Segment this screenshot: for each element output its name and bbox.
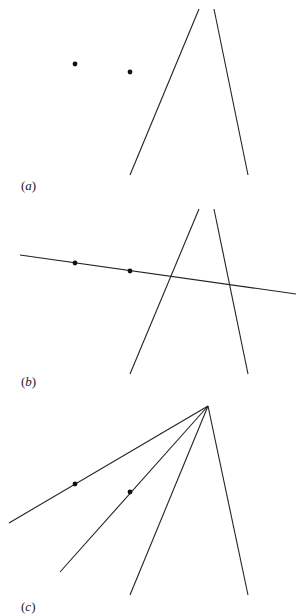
- panel-c: [9, 406, 248, 595]
- point-1: [73, 482, 78, 487]
- transversal-line: [20, 255, 296, 294]
- point-1: [73, 62, 78, 67]
- panel-label-b: (b): [21, 374, 36, 390]
- point-2: [128, 269, 133, 274]
- ray-1: [9, 406, 208, 523]
- line-right: [214, 209, 248, 374]
- ray-2: [60, 406, 208, 572]
- line-left: [130, 209, 199, 374]
- ray-4: [208, 406, 248, 595]
- panel-b: [20, 209, 296, 374]
- point-2: [128, 490, 133, 495]
- line-right: [214, 9, 248, 175]
- point-2: [128, 70, 133, 75]
- diagram-canvas: [0, 0, 298, 616]
- panel-a: [73, 9, 248, 175]
- panel-label-c: (c): [21, 599, 35, 615]
- line-left: [130, 9, 199, 175]
- point-1: [73, 261, 78, 266]
- ray-3: [130, 406, 208, 595]
- panel-label-a: (a): [21, 178, 36, 194]
